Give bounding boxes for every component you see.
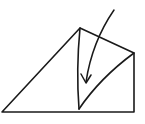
paper-shape (2, 28, 134, 112)
fold-arrow-icon (81, 10, 114, 83)
fold-diagram (0, 0, 145, 124)
fold-left-edge (78, 28, 80, 109)
